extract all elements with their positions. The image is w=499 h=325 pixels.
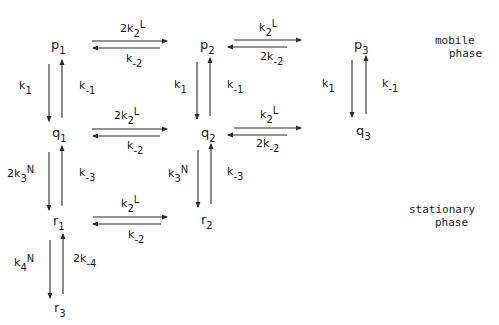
rate-q2-q3-reverse: 2k-2 bbox=[256, 138, 279, 154]
rate-r1-r3-up: 2k-4 bbox=[73, 253, 96, 269]
rate-q2-r2-down: k3N bbox=[168, 165, 188, 184]
rate-q1-q2-reverse: k-2 bbox=[127, 140, 143, 156]
rate-r1-r2-reverse: k-2 bbox=[128, 229, 144, 245]
node-r2: r2 bbox=[201, 213, 213, 231]
node-r3: r3 bbox=[54, 301, 66, 319]
rate-p2-q2-down: k1 bbox=[174, 79, 187, 95]
rate-q2-q3-forward: k2L bbox=[260, 106, 278, 125]
node-r1: r1 bbox=[53, 214, 65, 232]
rate-p2-p3-reverse: 2k-2 bbox=[260, 51, 283, 67]
rate-p1-q1-down: k1 bbox=[19, 80, 32, 96]
rate-p3-q3-down: k1 bbox=[322, 78, 335, 94]
node-q2: q2 bbox=[201, 126, 216, 144]
stationary-phase-label: stationary phase bbox=[409, 203, 475, 229]
node-q3: q3 bbox=[356, 124, 371, 142]
node-p2: p2 bbox=[200, 38, 215, 56]
rate-p2-p3-forward: k2L bbox=[259, 19, 277, 38]
node-p3: p3 bbox=[354, 38, 369, 56]
rate-p2-q2-up: k-1 bbox=[227, 79, 243, 95]
arrows-layer bbox=[0, 0, 499, 325]
rate-p3-q3-up: k-1 bbox=[382, 78, 398, 94]
rate-p1-p2-forward: 2k2L bbox=[120, 20, 145, 39]
rate-q1-r1-down: 2k3N bbox=[7, 165, 34, 184]
rate-p1-p2-reverse: k-2 bbox=[126, 53, 142, 69]
rate-q2-r2-up: k-3 bbox=[227, 166, 243, 182]
node-p1: p1 bbox=[51, 38, 66, 56]
node-q1: q1 bbox=[52, 126, 67, 144]
rate-q1-q2-forward: 2k2L bbox=[114, 107, 139, 126]
rate-r1-r3-down: k4N bbox=[14, 254, 34, 273]
rate-q1-r1-up: k-3 bbox=[79, 167, 95, 183]
rate-r1-r2-forward: k2L bbox=[121, 195, 139, 214]
reaction-scheme-diagram: p1 p2 p3 q1 q2 q3 r1 r2 r3 2k2L k-2 k2L … bbox=[0, 0, 499, 325]
mobile-phase-label: mobile phase bbox=[435, 34, 482, 60]
rate-p1-q1-up: k-1 bbox=[79, 80, 95, 96]
